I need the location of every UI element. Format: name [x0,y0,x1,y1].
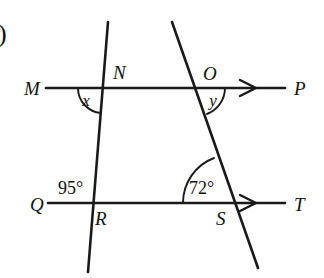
angle-label-y: y [207,91,217,110]
label-s: S [216,208,226,229]
transversal-right-os [172,22,258,268]
angle-label-x: x [81,91,90,110]
label-o: O [203,63,217,84]
label-t: T [294,194,306,215]
label-n: N [112,62,127,83]
transversal-left-nr [88,22,108,272]
label-p: P [293,78,306,99]
label-r: R [94,208,107,229]
geometry-canvas: ) M N O P Q R S T x y 95° 72° [0,0,324,278]
item-marker: ) [0,19,7,48]
label-m: M [23,78,41,99]
geometry-figure: ) M N O P Q R S T x y 95° 72° [0,0,324,278]
label-q: Q [30,194,44,215]
angle-label-95: 95° [58,178,83,198]
angle-label-72: 72° [189,178,214,198]
